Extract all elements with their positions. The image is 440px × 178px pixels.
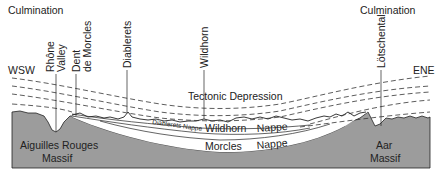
direction-west-label: WSW — [8, 64, 35, 76]
culmination-left-label: Culmination — [8, 4, 64, 16]
aar-massif-label: Massif — [370, 152, 400, 164]
peak-label-diablerets: Diablerets — [121, 21, 133, 68]
peak-label-wildhorn: Wildhorn — [198, 26, 210, 68]
peak-label-lotschental: Lötschental — [375, 14, 387, 68]
wildhorn-nappe-label: Nappe — [256, 120, 288, 134]
culmination-right-label: Culmination — [360, 4, 416, 16]
aiguilles-rouges-label: Aiguilles Rouges — [20, 139, 98, 151]
aiguilles-massif-label: Massif — [42, 152, 72, 164]
morcles-label: Morcles — [205, 140, 242, 152]
wildhorn-label: Wildhorn — [205, 122, 247, 134]
aar-label: Aar — [376, 139, 393, 151]
direction-east-label: ENE — [413, 64, 435, 76]
cross-section-diagram: Culmination Culmination WSW ENE Rhône Va… — [0, 0, 440, 178]
peak-label-valley: Valley — [55, 43, 67, 72]
peak-label-de-morcles: de Morcles — [81, 21, 93, 72]
tectonic-depression-label: Tectonic Depression — [188, 90, 283, 102]
